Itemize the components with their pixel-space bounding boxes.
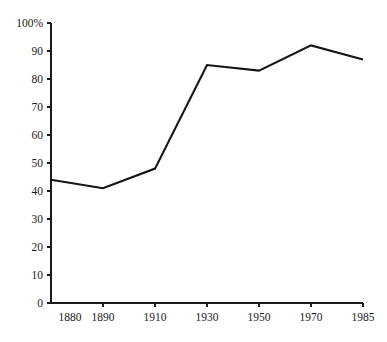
y-axis-tick-label: 90 xyxy=(32,45,44,57)
x-axis-tick-label: 1880 xyxy=(59,311,82,323)
y-axis-tick-label: 20 xyxy=(32,241,44,253)
y-axis-tick-label: 60 xyxy=(32,129,44,141)
chart-canvas: 0102030405060708090100% 1880189019101930… xyxy=(0,0,387,342)
y-axis-tick-label: 80 xyxy=(32,73,44,85)
x-axis-tick-label: 1985 xyxy=(352,311,375,323)
line-chart-figure: 0102030405060708090100% 1880189019101930… xyxy=(0,0,387,342)
y-axis-tick-label: 0 xyxy=(37,297,43,309)
y-axis-tick-label: 30 xyxy=(32,213,44,225)
x-axis-tick-label: 1890 xyxy=(92,311,115,323)
y-axis-tick-label: 70 xyxy=(32,101,44,113)
y-axis-tick-label: 10 xyxy=(32,269,44,281)
x-axis-tick-label: 1970 xyxy=(300,311,323,323)
y-axis-tick-label: 100% xyxy=(16,17,43,29)
y-axis-tick-label: 40 xyxy=(32,185,44,197)
x-axis-tick-label: 1930 xyxy=(196,311,219,323)
x-axis-tick-label: 1910 xyxy=(144,311,167,323)
x-axis-tick-label: 1950 xyxy=(248,311,271,323)
y-axis-tick-label: 50 xyxy=(32,157,44,169)
